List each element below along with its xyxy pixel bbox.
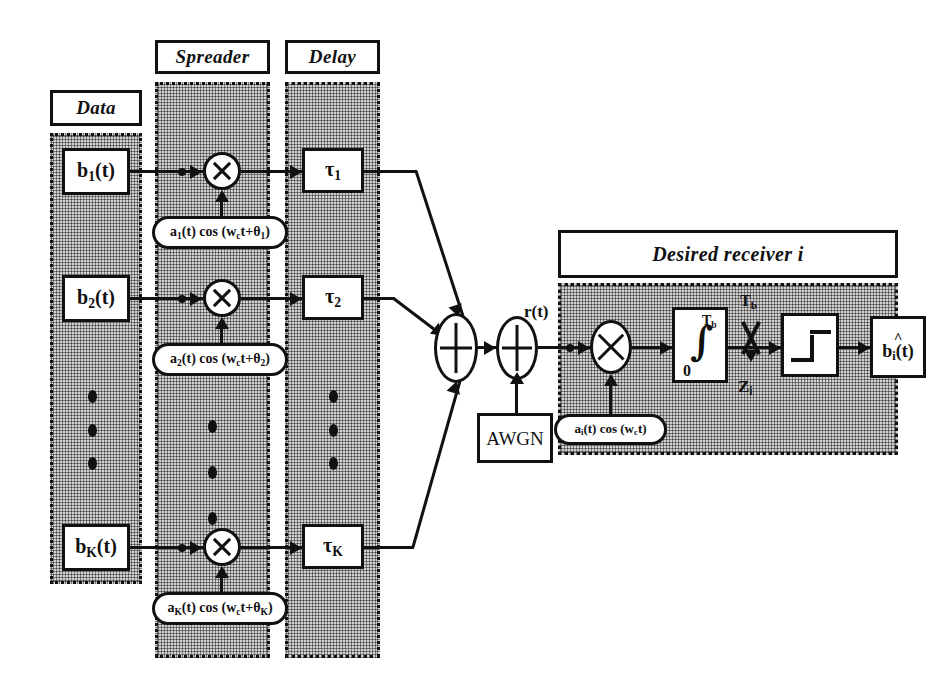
arrow-into-output xyxy=(858,341,870,355)
oscillator-user-2-label: a2(t) cos (wct+θ2) xyxy=(170,351,270,368)
summing-node-noise xyxy=(496,316,538,380)
integrator-upper-limit: Tb xyxy=(702,314,717,330)
output-block-label: ^ bi(t) xyxy=(882,332,913,363)
arrow-into-noise-adder xyxy=(484,341,496,355)
header-data: Data xyxy=(50,90,142,126)
receiver-local-oscillator: ai(t) cos (wct) xyxy=(554,414,667,445)
arrow-lo-into-mixer xyxy=(604,374,618,386)
sampler-rate-label: Tb xyxy=(740,293,757,311)
multiplier-user-1 xyxy=(203,152,241,190)
integrator-glyph: ∫ Tb 0 xyxy=(675,310,725,380)
data-block-user-2: b2(t) xyxy=(62,275,130,322)
output-block: ^ bi(t) xyxy=(870,316,926,378)
data-block-user-k: bK(t) xyxy=(62,524,130,571)
step-function-glyph xyxy=(784,316,836,374)
delay-block-user-1-label: τ1 xyxy=(325,159,341,182)
ellipsis-spreader-column xyxy=(206,420,218,525)
arrow-into-mult-k-osc xyxy=(215,566,229,578)
arrow-into-delay-1 xyxy=(290,165,302,179)
arrow-into-mult-k xyxy=(190,541,202,555)
output-expression: bi(t) xyxy=(882,344,913,362)
delay-block-user-k-label: τK xyxy=(323,535,343,558)
data-block-user-1: b1(t) xyxy=(62,148,130,195)
multiplier-user-2 xyxy=(203,279,241,317)
header-spreader-label: Spreader xyxy=(176,46,250,68)
awgn-label: AWGN xyxy=(486,429,544,448)
oscillator-user-1-label: a1(t) cos (wct+θ1) xyxy=(170,224,270,241)
arrow-into-delay-2 xyxy=(290,292,302,306)
junction-dot-k xyxy=(178,544,186,552)
wire-delayk-stub xyxy=(364,546,414,549)
header-delay: Delay xyxy=(285,40,380,74)
header-spreader: Spreader xyxy=(155,40,270,74)
awgn-block: AWGN xyxy=(477,413,553,463)
header-desired-receiver-label: Desired receiver i xyxy=(652,243,804,266)
integrator-block: ∫ Tb 0 xyxy=(672,307,728,383)
delay-block-user-k: τK xyxy=(302,524,364,569)
delay-block-user-1: τ1 xyxy=(302,148,364,193)
junction-dot-2 xyxy=(178,295,186,303)
integrator-lower-limit: 0 xyxy=(683,363,691,379)
header-desired-receiver: Desired receiver i xyxy=(558,230,898,278)
step-lower-segment xyxy=(791,358,812,362)
arrow-into-mult-2-osc xyxy=(215,317,229,329)
oscillator-user-1: a1(t) cos (wct+θ1) xyxy=(152,216,288,249)
arrow-into-mult-1-osc xyxy=(215,190,229,202)
header-data-label: Data xyxy=(76,97,116,119)
decision-device-block xyxy=(781,313,839,377)
oscillator-user-2: a2(t) cos (wct+θ2) xyxy=(152,343,288,376)
summing-node-users xyxy=(434,313,478,383)
arrow-into-integrator xyxy=(660,341,672,355)
delay-block-user-2-label: τ2 xyxy=(325,286,341,309)
oscillator-user-k: aK(t) cos (wct+θK) xyxy=(152,592,288,625)
received-signal-label: r(t) xyxy=(524,303,549,320)
diagram-canvas: Spreader Delay Data Desired receiver i b… xyxy=(0,0,951,698)
receiver-local-oscillator-label: ai(t) cos (wct) xyxy=(574,421,646,437)
data-block-user-2-label: b2(t) xyxy=(77,287,115,310)
delay-block-user-2: τ2 xyxy=(302,275,364,320)
receiver-mixer xyxy=(590,320,632,374)
arrow-into-decision-device xyxy=(769,341,781,355)
ellipsis-data-column xyxy=(86,390,98,470)
header-delay-label: Delay xyxy=(309,46,356,68)
step-upper-segment xyxy=(810,330,831,334)
wire-awgn-to-adder xyxy=(515,380,518,415)
wire-delay1-stub xyxy=(364,170,417,173)
oscillator-user-k-label: aK(t) cos (wct+θK) xyxy=(167,600,272,617)
wire-delay2-stub xyxy=(364,297,394,300)
wire-lo-to-mixer xyxy=(609,382,612,414)
step-riser-segment xyxy=(810,335,814,363)
arrow-into-delay-k xyxy=(290,541,302,555)
junction-dot-1 xyxy=(178,168,186,176)
arrow-into-mult-2 xyxy=(190,292,202,306)
arrow-awgn-into-adder xyxy=(510,372,524,384)
panel-data-column xyxy=(50,133,142,584)
junction-dot-receiver-input xyxy=(566,344,574,352)
arrow-into-mult-1 xyxy=(190,165,202,179)
data-block-user-1-label: b1(t) xyxy=(77,160,115,183)
arrow-into-receiver-mixer xyxy=(578,341,590,355)
data-block-user-k-label: bK(t) xyxy=(75,536,117,559)
multiplier-user-k xyxy=(203,528,241,566)
sampler-arrow xyxy=(744,350,758,362)
ellipsis-delay-column xyxy=(327,390,339,470)
decision-variable-label: Zi xyxy=(738,378,753,398)
